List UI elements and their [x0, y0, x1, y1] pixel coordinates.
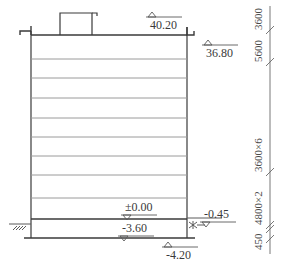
elevation-label-basement-floor: -3.60 — [122, 222, 147, 234]
floor-lines — [31, 59, 187, 198]
dim-top-floor: 5600 — [253, 40, 264, 62]
elevation-marker-icon — [204, 40, 212, 45]
dim-basement: 450 — [253, 234, 264, 251]
elevation-marker-icon — [148, 12, 156, 17]
elevation-label-ground-floor: ±0.00 — [125, 201, 153, 213]
elevation-label-foundation: -4.20 — [166, 249, 191, 261]
elevation-marker-icon — [164, 242, 172, 247]
penthouse — [60, 13, 97, 35]
elevation-label-outdoor-grade: -0.45 — [204, 208, 229, 220]
dim-lower: 4800×2 — [253, 191, 264, 225]
dim-penthouse: 3600 — [253, 8, 264, 30]
dimension-chain — [266, 6, 274, 254]
elevation-label-penthouse-top: 40.20 — [150, 19, 177, 31]
grade-left — [9, 224, 31, 230]
elevation-label-roof: 36.80 — [206, 47, 233, 59]
dim-typical: 3600×6 — [253, 138, 264, 172]
